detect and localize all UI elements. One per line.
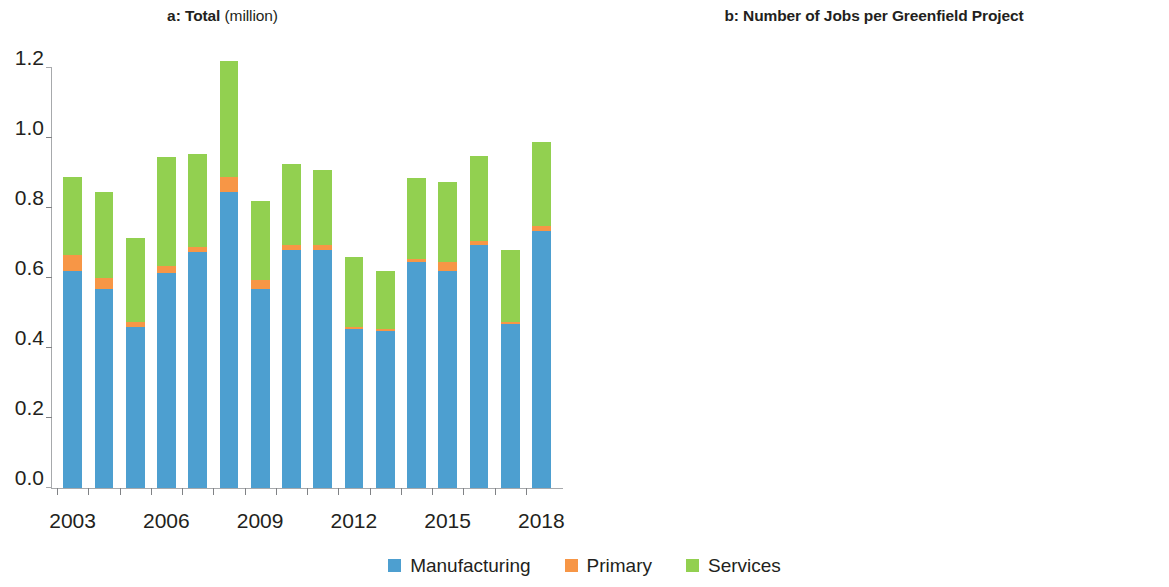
panel-a-y-axis <box>51 68 52 488</box>
bar-segment-services <box>282 164 301 245</box>
bar-segment-manufacturing <box>532 231 551 488</box>
bar-segment-services <box>407 178 426 259</box>
y-tick <box>46 487 52 488</box>
legend-swatch-primary-icon <box>565 559 578 572</box>
x-axis-label: 2012 <box>331 510 378 531</box>
chart-legend: ManufacturingPrimaryServices <box>0 556 1169 575</box>
bar-segment-primary <box>470 241 489 245</box>
bar-segment-services <box>220 61 239 177</box>
bar-segment-primary <box>407 259 426 263</box>
bar-segment-services <box>438 182 457 263</box>
bar-segment-manufacturing <box>470 245 489 488</box>
bar-segment-primary <box>313 245 332 250</box>
panel-a-plot-area: 0.00.20.40.60.81.01.22003200620092012201… <box>57 68 557 488</box>
stacked-bar <box>501 68 520 488</box>
bar-segment-manufacturing <box>345 329 364 488</box>
legend-swatch-manufacturing-icon <box>388 559 401 572</box>
y-tick <box>46 417 52 418</box>
bar-segment-services <box>95 192 114 278</box>
legend-label: Primary <box>587 556 652 575</box>
bar-segment-primary <box>63 255 82 271</box>
x-tick <box>276 488 277 495</box>
bar-segment-services <box>532 142 551 226</box>
stacked-bar <box>313 68 332 488</box>
y-tick <box>46 137 52 138</box>
y-axis-label: 0.8 <box>15 187 44 208</box>
y-tick <box>46 67 52 68</box>
bar-segment-primary <box>188 247 207 252</box>
bar-segment-manufacturing <box>438 271 457 488</box>
x-tick <box>151 488 152 495</box>
panel-a: a: Total (million) 0.00.20.40.60.81.01.2… <box>0 0 585 548</box>
stacked-bar <box>470 68 489 488</box>
stacked-bar <box>157 68 176 488</box>
panel-b-title-main: Number of Jobs per Greenfield Project <box>743 7 1024 24</box>
bar-segment-primary <box>532 226 551 231</box>
bar-segment-primary <box>376 329 395 331</box>
bar-segment-services <box>501 250 520 322</box>
stacked-bar <box>220 68 239 488</box>
legend-swatch-services-icon <box>686 559 699 572</box>
x-tick <box>463 488 464 495</box>
bar-segment-primary <box>251 280 270 289</box>
stacked-bar <box>126 68 145 488</box>
stacked-bar <box>438 68 457 488</box>
bar-segment-primary <box>282 245 301 250</box>
legend-label: Manufacturing <box>410 556 530 575</box>
x-axis-label: 2018 <box>518 510 565 531</box>
panel-a-title-main: Total <box>185 7 220 24</box>
bar-segment-services <box>376 271 395 329</box>
x-tick <box>245 488 246 495</box>
x-axis-label: 2003 <box>49 510 96 531</box>
x-tick <box>120 488 121 495</box>
bar-segment-primary <box>345 327 364 329</box>
x-tick <box>370 488 371 495</box>
bar-segment-manufacturing <box>313 250 332 488</box>
panel-b-title: b: Number of Jobs per Greenfield Project <box>585 6 1169 26</box>
legend-item-manufacturing[interactable]: Manufacturing <box>388 556 530 575</box>
y-tick <box>46 277 52 278</box>
y-axis-label: 0.6 <box>15 257 44 278</box>
panel-a-title: a: Total (million) <box>0 6 585 26</box>
bar-segment-primary <box>126 322 145 327</box>
bar-segment-services <box>345 257 364 327</box>
bar-segment-manufacturing <box>501 324 520 489</box>
bar-segment-services <box>188 154 207 247</box>
panel-a-title-unit: (million) <box>225 7 278 24</box>
y-axis-label: 0.0 <box>15 467 44 488</box>
bar-segment-manufacturing <box>407 262 426 488</box>
bar-segment-manufacturing <box>63 271 82 488</box>
x-axis-label: 2015 <box>424 510 471 531</box>
bar-segment-manufacturing <box>251 289 270 489</box>
stacked-bar <box>63 68 82 488</box>
x-tick <box>495 488 496 495</box>
legend-item-services[interactable]: Services <box>686 556 781 575</box>
bar-segment-services <box>63 177 82 256</box>
stacked-bar <box>407 68 426 488</box>
x-tick <box>432 488 433 495</box>
panel-b: b: Number of Jobs per Greenfield Project… <box>585 0 1169 548</box>
stacked-bar <box>188 68 207 488</box>
x-axis-label: 2009 <box>237 510 284 531</box>
bar-segment-manufacturing <box>282 250 301 488</box>
stacked-bar <box>95 68 114 488</box>
legend-item-primary[interactable]: Primary <box>565 556 652 575</box>
x-tick <box>88 488 89 495</box>
panel-b-title-prefix: b: <box>724 7 738 24</box>
x-tick <box>307 488 308 495</box>
figure-two-panel-bar-charts: a: Total (million) 0.00.20.40.60.81.01.2… <box>0 0 1169 587</box>
x-tick <box>526 488 527 495</box>
stacked-bar <box>251 68 270 488</box>
bar-segment-primary <box>501 322 520 324</box>
bar-segment-manufacturing <box>157 273 176 488</box>
bar-segment-primary <box>220 177 239 193</box>
bar-segment-manufacturing <box>95 289 114 489</box>
stacked-bar <box>345 68 364 488</box>
legend-label: Services <box>708 556 781 575</box>
x-tick <box>213 488 214 495</box>
x-tick <box>182 488 183 495</box>
bar-segment-primary <box>95 278 114 289</box>
y-axis-label: 1.0 <box>15 117 44 138</box>
bar-segment-primary <box>438 262 457 271</box>
bar-segment-manufacturing <box>376 331 395 489</box>
